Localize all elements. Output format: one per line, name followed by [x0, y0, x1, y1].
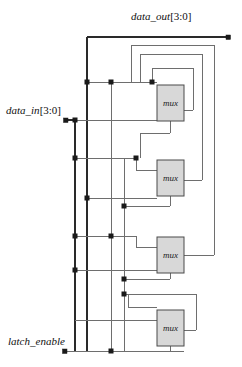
circuit-schematic-svg: mux mux [0, 0, 242, 367]
junction-dot [73, 234, 78, 239]
mux2-label: mux [163, 173, 178, 183]
mux2-group: mux [75, 54, 202, 206]
mux4-label: mux [163, 323, 178, 333]
junction-dot [73, 268, 78, 273]
mux4-group: mux [75, 294, 196, 351]
junction-dot [109, 80, 114, 85]
junction-dot [85, 80, 90, 85]
data-out-label: data_out[3:0] [131, 11, 192, 22]
latch-enable-name: latch_enable [8, 335, 65, 347]
mux1-label: mux [163, 98, 178, 108]
junction-dot [134, 156, 139, 161]
latch-enable-label: latch_enable [8, 336, 65, 347]
mux3-label: mux [163, 250, 178, 260]
junction-dot [85, 196, 90, 201]
junction-dot [122, 204, 127, 209]
mux1-group: mux [75, 68, 193, 158]
junction-dot [122, 292, 127, 297]
latch-circuit-diagram: mux mux [0, 0, 242, 367]
junction-dot [122, 277, 127, 282]
data-in-terminal[interactable] [64, 118, 69, 123]
data-out-range: [3:0] [170, 10, 191, 22]
junction-dot [109, 349, 114, 354]
junction-dot [109, 234, 114, 239]
latch-enable-terminal[interactable] [63, 349, 68, 354]
junction-dot [73, 156, 78, 161]
data-in-range: [3:0] [40, 104, 61, 116]
data-in-name: data_in [6, 104, 40, 116]
junction-dot [150, 80, 155, 85]
junction-dot [73, 118, 78, 123]
data-out-name: data_out [131, 10, 170, 22]
data-in-label: data_in[3:0] [6, 105, 61, 116]
junction-dots [73, 80, 155, 354]
data-out-terminal[interactable] [226, 35, 231, 40]
